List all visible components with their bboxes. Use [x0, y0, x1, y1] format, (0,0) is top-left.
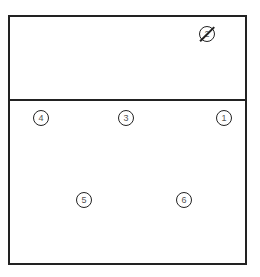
position-marker-4: 4 — [33, 110, 49, 126]
position-label: 1 — [221, 114, 226, 123]
position-label: 6 — [181, 196, 186, 205]
position-marker-3: 3 — [118, 110, 134, 126]
position-label: 4 — [38, 114, 43, 123]
position-label: 3 — [123, 114, 128, 123]
position-marker-6: 6 — [176, 192, 192, 208]
position-marker-2: 2 — [199, 26, 215, 42]
position-marker-5: 5 — [76, 192, 92, 208]
position-marker-1: 1 — [216, 110, 232, 126]
court-outline — [8, 15, 247, 265]
position-label: 5 — [81, 196, 86, 205]
court-divider-line — [8, 99, 247, 101]
